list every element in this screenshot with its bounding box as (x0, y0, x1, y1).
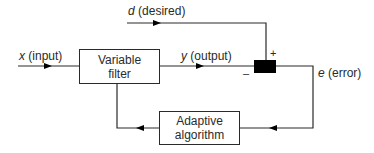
arrow-adapt-feedback-icon (136, 125, 144, 131)
junction-minus-sign: – (243, 68, 249, 79)
label-desired: d (desired) (128, 4, 185, 18)
error-text: (error) (328, 66, 361, 80)
variable-filter-block: Variable filter (79, 49, 160, 84)
filter-line2: filter (108, 67, 131, 81)
junction-plus-sign: + (270, 48, 276, 59)
input-symbol: x (19, 49, 25, 63)
label-input: x (input) (19, 49, 62, 63)
desired-text: (desired) (138, 4, 185, 18)
filter-line1: Variable (98, 53, 141, 67)
adaptive-algorithm-block: Adaptive algorithm (159, 111, 240, 145)
summing-junction (254, 60, 276, 73)
error-symbol: e (318, 66, 325, 80)
desired-symbol: d (128, 4, 135, 18)
input-text: (input) (28, 49, 62, 63)
label-output: y (output) (181, 49, 232, 63)
label-error: e (error) (318, 66, 361, 80)
output-text: (output) (190, 49, 231, 63)
output-symbol: y (181, 49, 187, 63)
algorithm-line2: algorithm (175, 128, 224, 142)
arrow-output-icon (196, 63, 204, 69)
algorithm-line1: Adaptive (176, 114, 223, 128)
arrow-error-feedback-icon (269, 125, 277, 131)
arrow-desired-icon (153, 20, 161, 26)
arrow-input-icon (44, 63, 52, 69)
